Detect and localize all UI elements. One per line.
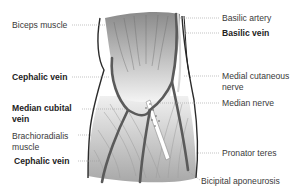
label-cephalic-vein-upper: Cephalic vein	[12, 72, 67, 82]
basilic-artery	[178, 14, 180, 92]
label-brachioradialis-line2: muscle	[12, 142, 39, 152]
label-brachioradialis-line1: Brachioradialis	[12, 131, 68, 141]
label-median-cubital-vein-line2: vein	[12, 114, 29, 124]
label-bicipital-aponeurosis: Bicipital aponeurosis	[201, 176, 280, 186]
label-median-cubital-vein-line1: Median cubital	[12, 103, 72, 113]
label-basilic-artery: Basilic artery	[222, 13, 271, 23]
label-basilic-vein: Basilic vein	[222, 28, 269, 38]
label-medial-cutaneous-nerve-line1: Medial cutaneous	[222, 71, 289, 81]
label-medial-cutaneous-nerve-line2: nerve	[222, 82, 244, 92]
cubital-fossa-diagram: Biceps muscle Cephalic vein Median cubit…	[0, 0, 304, 191]
label-pronator-teres: Pronator teres	[222, 148, 276, 158]
label-biceps-muscle: Biceps muscle	[12, 20, 67, 30]
label-cephalic-vein-lower: Cephalic vein	[14, 156, 69, 166]
label-median-nerve: Median nerve	[222, 98, 274, 108]
